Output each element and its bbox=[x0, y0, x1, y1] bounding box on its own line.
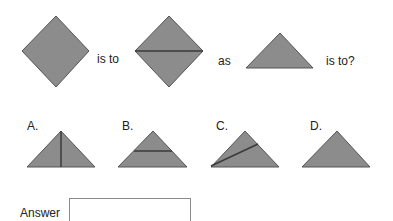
answer-label: Answer bbox=[20, 206, 60, 220]
answer-input[interactable] bbox=[69, 198, 191, 221]
triangle-plain-icon bbox=[0, 0, 393, 221]
